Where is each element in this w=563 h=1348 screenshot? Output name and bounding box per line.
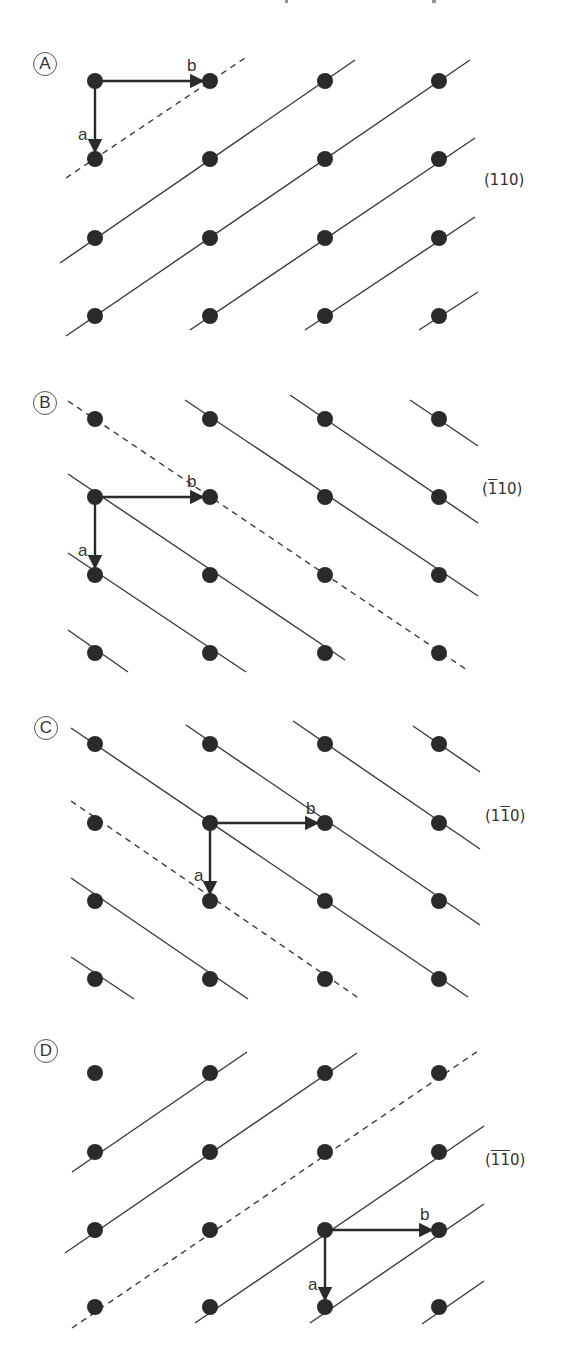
lattice-point bbox=[202, 1222, 218, 1238]
lattice-point bbox=[317, 411, 333, 427]
origin-plane-dashed-line bbox=[68, 401, 467, 670]
lattice-point bbox=[202, 567, 218, 583]
panel-label-c: C bbox=[34, 716, 58, 740]
panel-a bbox=[60, 58, 478, 336]
origin-plane-dashed-line bbox=[72, 1051, 478, 1328]
lattice-point bbox=[317, 308, 333, 324]
panel-c bbox=[71, 721, 480, 999]
lattice-point bbox=[87, 645, 103, 661]
lattice-point bbox=[431, 1144, 447, 1160]
lattice-point bbox=[317, 736, 333, 752]
lattice-point bbox=[317, 815, 333, 831]
lattice-point bbox=[431, 567, 447, 583]
lattice-point bbox=[431, 489, 447, 505]
lattice-point bbox=[202, 411, 218, 427]
lattice-point bbox=[431, 736, 447, 752]
lattice-point bbox=[431, 230, 447, 246]
lattice-point bbox=[317, 893, 333, 909]
lattice-point bbox=[202, 308, 218, 324]
lattice-point bbox=[431, 151, 447, 167]
lattice-point bbox=[317, 1299, 333, 1315]
miller-index-rest: 110) bbox=[490, 171, 524, 189]
lattice-point bbox=[87, 151, 103, 167]
lattice-point bbox=[87, 1222, 103, 1238]
lattice-point bbox=[87, 736, 103, 752]
lattice-point bbox=[431, 815, 447, 831]
lattice-point bbox=[431, 73, 447, 89]
lattice-point bbox=[202, 1299, 218, 1315]
panel-b bbox=[68, 395, 478, 672]
lattice-plane-line bbox=[310, 1204, 484, 1323]
miller-index-label: (110) bbox=[485, 807, 525, 825]
lattice-point bbox=[317, 567, 333, 583]
lattice-point bbox=[87, 308, 103, 324]
lattice-point bbox=[202, 73, 218, 89]
vector-b-label: b bbox=[187, 56, 196, 76]
panels-layer bbox=[60, 58, 484, 1328]
vector-b-label: b bbox=[420, 1205, 429, 1225]
lattice-point bbox=[87, 893, 103, 909]
lattice-point bbox=[431, 411, 447, 427]
lattice-point bbox=[87, 971, 103, 987]
lattice-point bbox=[202, 1065, 218, 1081]
lattice-point bbox=[317, 1065, 333, 1081]
lattice-point bbox=[431, 645, 447, 661]
lattice-point bbox=[202, 230, 218, 246]
lattice-plane-line bbox=[422, 1281, 484, 1324]
lattice-point bbox=[87, 1299, 103, 1315]
miller-index-overbar-digits: 1 bbox=[488, 480, 498, 498]
miller-index-rest: 10) bbox=[497, 480, 522, 498]
vector-a-label: a bbox=[78, 541, 87, 561]
lattice-point bbox=[317, 73, 333, 89]
vector-b-label: b bbox=[306, 799, 315, 819]
lattice-plane-line bbox=[66, 60, 470, 336]
lattice-point bbox=[202, 489, 218, 505]
miller-index-label: (110) bbox=[482, 480, 522, 498]
miller-index-label: (110) bbox=[484, 171, 524, 189]
lattice-point bbox=[202, 1144, 218, 1160]
lattice-point bbox=[317, 489, 333, 505]
lattice-point bbox=[431, 971, 447, 987]
lattice-point bbox=[431, 1222, 447, 1238]
lattice-point bbox=[87, 1144, 103, 1160]
lattice-point bbox=[317, 1144, 333, 1160]
lattice-point bbox=[431, 893, 447, 909]
vector-b-label: b bbox=[187, 472, 196, 492]
lattice-point bbox=[317, 230, 333, 246]
lattice-plane-line bbox=[413, 726, 480, 772]
vector-a-label: a bbox=[194, 866, 203, 886]
lattice-plane-line bbox=[290, 395, 478, 523]
vector-a-label: a bbox=[78, 125, 87, 145]
lattice-point bbox=[202, 971, 218, 987]
lattice-plane-diagram bbox=[0, 0, 563, 1348]
miller-index-label: (110) bbox=[485, 1151, 525, 1169]
lattice-plane-line bbox=[419, 292, 478, 330]
lattice-point bbox=[202, 736, 218, 752]
miller-index-rest: 0) bbox=[510, 1151, 525, 1169]
lattice-point bbox=[317, 645, 333, 661]
lattice-point bbox=[87, 567, 103, 583]
lattice-point bbox=[87, 230, 103, 246]
lattice-plane-line bbox=[71, 728, 468, 997]
miller-index-rest: 0) bbox=[510, 807, 525, 825]
panel-label-b: B bbox=[33, 391, 57, 415]
lattice-point bbox=[87, 815, 103, 831]
lattice-point bbox=[317, 151, 333, 167]
vector-a-label: a bbox=[308, 1275, 317, 1295]
lattice-point bbox=[87, 1065, 103, 1081]
panel-label-d: D bbox=[34, 1039, 58, 1063]
lattice-point bbox=[202, 645, 218, 661]
lattice-point bbox=[431, 1299, 447, 1315]
lattice-point bbox=[202, 893, 218, 909]
miller-index-prefix: (1 bbox=[485, 807, 500, 825]
panel-label-a: A bbox=[33, 52, 57, 76]
lattice-point bbox=[431, 1065, 447, 1081]
lattice-point bbox=[431, 308, 447, 324]
lattice-point bbox=[317, 971, 333, 987]
lattice-point bbox=[202, 151, 218, 167]
lattice-point bbox=[87, 411, 103, 427]
miller-index-overbar-digits: 1 bbox=[500, 807, 510, 825]
miller-index-overbar-digits: 11 bbox=[491, 1151, 510, 1169]
panel-d bbox=[65, 1051, 484, 1328]
